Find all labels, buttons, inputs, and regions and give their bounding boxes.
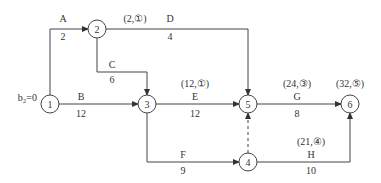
node-1: 1 (41, 95, 59, 113)
node-4: 4 (239, 153, 257, 171)
activity-E-duration: 12 (190, 108, 200, 119)
arrow-D (106, 29, 248, 95)
network-diagram: 1 2 3 4 5 6 b₂=0 A 2 B 12 C 6 (2, (0, 0, 381, 183)
activity-H-duration: 10 (306, 165, 316, 176)
activity-H-annotation: (21,④) (297, 136, 325, 148)
activity-G-duration: 8 (295, 108, 300, 119)
svg-text:4: 4 (246, 157, 251, 168)
activity-F-name: F (180, 149, 186, 160)
arrow-C (97, 38, 147, 95)
start-label: b₂=0 (18, 92, 37, 103)
activity-F-duration: 9 (181, 165, 186, 176)
arrow-A (50, 29, 88, 95)
activity-C-name: C (109, 59, 116, 70)
node-2: 2 (88, 20, 106, 38)
activity-A-duration: 2 (61, 31, 66, 42)
activity-E-annotation: (12,①) (181, 78, 209, 90)
node-3: 3 (138, 95, 156, 113)
activity-D-name: D (166, 13, 173, 24)
arrow-F (147, 113, 239, 162)
activity-G-annotation: (24,③) (283, 78, 311, 90)
activity-B-duration: 12 (76, 108, 86, 119)
svg-text:6: 6 (348, 99, 353, 110)
svg-text:5: 5 (246, 99, 251, 110)
activity-E-name: E (192, 91, 198, 102)
activity-A-name: A (59, 13, 67, 24)
activity-H-name: H (307, 149, 314, 160)
activity-B-name: B (78, 91, 85, 102)
svg-text:2: 2 (95, 24, 100, 35)
svg-text:3: 3 (145, 99, 150, 110)
activity-C-duration: 6 (110, 74, 115, 85)
node-6: 6 (341, 95, 359, 113)
svg-text:1: 1 (48, 99, 53, 110)
node-5: 5 (239, 95, 257, 113)
activity-D-duration: 4 (168, 31, 173, 42)
node-6-annotation: (32,⑤) (336, 78, 364, 90)
activity-G-name: G (293, 91, 300, 102)
activity-D-annotation: (2,①) (123, 13, 146, 25)
